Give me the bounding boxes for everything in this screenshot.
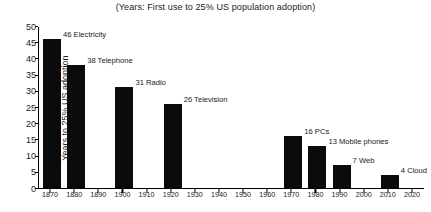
bar-label-telephone: 38 Telephone [87,57,132,65]
bar-pcs [284,136,302,188]
y-tick-label: 15 [4,136,36,145]
y-tick-mark [35,75,39,76]
chart-title: (Years: First use to 25% US population a… [0,2,431,12]
y-tick-mark [35,156,39,157]
plot-area: Years to 25% US adoption 051015202530354… [38,27,424,189]
bar-label-cloud: 4 Cloud [401,167,427,175]
x-tick-mark [411,189,412,193]
x-tick-mark [98,189,99,193]
bar-label-radio: 31 Radio [135,79,165,87]
bar-label-web: 7 Web [353,157,375,165]
y-tick-label: 50 [4,23,36,32]
bar-label-television: 26 Television [184,96,228,104]
x-tick-mark [170,189,171,193]
x-tick-mark [194,189,195,193]
y-tick-label: 10 [4,152,36,161]
bar-label-mobile-phones: 13 Mobile phones [328,138,388,146]
y-tick-label: 40 [4,55,36,64]
y-tick-mark [35,139,39,140]
bar-mobile-phones [308,146,326,188]
y-axis-line [38,27,39,189]
x-tick-mark [291,189,292,193]
y-tick-mark [35,58,39,59]
x-tick-mark [122,189,123,193]
y-tick-label: 25 [4,104,36,113]
y-tick-mark [35,172,39,173]
y-tick-label: 5 [4,168,36,177]
y-tick-mark [35,42,39,43]
y-tick-label: 30 [4,87,36,96]
x-tick-mark [315,189,316,193]
bar-cloud [381,175,399,188]
y-tick-label: 45 [4,39,36,48]
y-tick-mark [35,107,39,108]
x-tick-mark [387,189,388,193]
bar-television [164,104,182,188]
bar-radio [115,87,133,187]
bar-web [333,165,351,188]
x-axis-line [38,188,424,189]
x-tick-mark [50,189,51,193]
bar-label-pcs: 16 PCs [304,128,329,136]
y-tick-label: 0 [4,185,36,194]
y-tick-mark [35,91,39,92]
y-tick-mark [35,123,39,124]
x-tick-mark [339,189,340,193]
bar-chart: (Years: First use to 25% US population a… [0,0,431,212]
y-tick-mark [35,188,39,189]
x-tick-mark [267,189,268,193]
x-tick-mark [363,189,364,193]
bar-telephone [67,65,85,188]
x-tick-mark [243,189,244,193]
y-tick-label: 35 [4,71,36,80]
bar-electricity [43,39,61,188]
x-tick-mark [146,189,147,193]
y-tick-mark [35,26,39,27]
y-tick-label: 20 [4,120,36,129]
x-tick-mark [74,189,75,193]
x-tick-mark [218,189,219,193]
bar-label-electricity: 46 Electricity [63,31,106,39]
